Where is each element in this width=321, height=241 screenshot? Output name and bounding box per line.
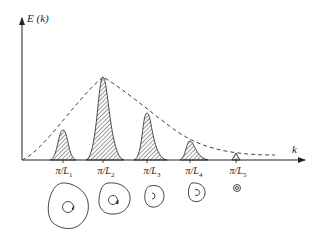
peak-2	[86, 77, 124, 160]
peak-4	[180, 141, 208, 160]
tick-label-2: π/L2	[98, 165, 115, 179]
eddy-2	[99, 183, 130, 214]
tick-label-1: π/L1	[56, 165, 73, 179]
tick-label-5: π/L5	[230, 165, 247, 179]
peak-5	[232, 153, 240, 160]
peak-1	[50, 130, 76, 160]
x-axis-label: k	[292, 143, 297, 155]
tick-label-4: π/L4	[186, 165, 203, 179]
energy-spectrum-diagram	[0, 0, 321, 241]
eddy-4	[188, 183, 205, 202]
eddy-3	[145, 185, 164, 207]
eddy-1	[48, 183, 88, 229]
tick-label-3: π/L3	[144, 165, 161, 179]
eddy-5	[234, 185, 241, 192]
y-axis-label: E (k)	[27, 12, 49, 24]
